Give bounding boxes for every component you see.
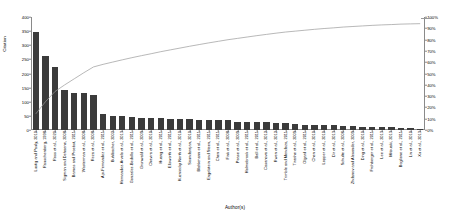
- y2-axis-tick-label: 100%: [425, 15, 438, 20]
- x-axis-category-label: Soundarajan, 2010: [188, 131, 192, 165]
- x-label-slot: Huang et al., 2011: [156, 131, 166, 203]
- bar-slot: [406, 17, 416, 130]
- x-label-slot: Mitsuaki, 2013: [387, 131, 397, 203]
- bar-slot: [214, 17, 224, 130]
- bar-series: [31, 17, 425, 130]
- bar: [282, 123, 288, 130]
- y2-axis-tick-mark: [425, 73, 427, 74]
- bar-slot: [185, 17, 195, 130]
- bar-slot: [69, 17, 79, 130]
- x-axis-category-label: Grunwald et al., 2009: [140, 131, 144, 169]
- bar-slot: [281, 17, 291, 130]
- bar: [148, 118, 154, 130]
- bar-slot: [223, 17, 233, 130]
- bar-slot: [31, 17, 41, 130]
- x-label-slot: Chen et al., 2010: [310, 131, 320, 203]
- x-label-slot: Lin et al., 2010: [406, 131, 416, 203]
- x-label-slot: Dir et al., 2013: [329, 131, 339, 203]
- cumulative-legend-swatch: [421, 18, 434, 19]
- bar: [234, 122, 240, 130]
- y2-axis-tick-mark: [425, 118, 427, 119]
- x-label-slot: Holmebrook et al., 2011: [242, 131, 252, 203]
- x-label-slot: Grunwald et al., 2009: [137, 131, 147, 203]
- x-label-slot: Frohberger et al., 2011: [367, 131, 377, 203]
- bar-slot: [156, 17, 166, 130]
- x-label-slot: Ball et al., 2011: [252, 131, 262, 203]
- x-label-slot: Pease et al., 2009: [233, 131, 243, 203]
- bar: [167, 119, 173, 130]
- x-axis-category-label: Barnes and Proebst, 2011: [72, 131, 76, 177]
- bar-slot: [175, 17, 185, 130]
- y-axis-title: Citation: [2, 14, 7, 74]
- x-axis-category-label: Gonzalez-Bedolla et al., 2011: [130, 131, 134, 183]
- y2-axis-tick-mark: [425, 130, 427, 131]
- x-axis-category-label: Chen et al., 2010: [313, 131, 317, 161]
- x-label-slot: Ross et al., 2020: [50, 131, 60, 203]
- x-axis-category-label: Fink et al., 2008: [226, 131, 230, 160]
- bar-slot: [367, 17, 377, 130]
- bar: [61, 90, 67, 130]
- x-axis-category-label: Rauschenberg, 1998: [43, 131, 47, 168]
- bar: [186, 119, 192, 130]
- bar-slot: [290, 17, 300, 130]
- x-axis-category-label: Lee et al., 2013: [380, 131, 384, 159]
- x-label-slot: Casanova et al., 2012: [262, 131, 272, 203]
- bar: [71, 93, 77, 130]
- bar: [81, 93, 87, 130]
- x-axis-category-label: Blahkmann et al., 2011: [197, 131, 201, 172]
- x-axis-category-label: Hernandez-Arvelo et al., 2013: [120, 131, 124, 184]
- x-axis-category-label: Dir et al., 2013: [332, 131, 336, 157]
- x-label-slot: Ellsworth et al., 2011: [166, 131, 176, 203]
- x-axis-category-label: Kuzniecky North et al., 2010: [178, 131, 182, 181]
- x-axis-category-label: Trimble and Mendoza, 2011: [284, 131, 288, 180]
- bar: [52, 67, 58, 130]
- x-axis-category-label: Reza et al., 2008: [92, 131, 96, 161]
- x-label-slot: Ajo-Fernandez et al., 2011: [98, 131, 108, 203]
- x-label-slot: Rwen et al., 2012: [271, 131, 281, 203]
- x-axis-category-label: Tiranhe et al., 2009: [293, 131, 297, 165]
- bar-slot: [300, 17, 310, 130]
- bar-slot: [242, 17, 252, 130]
- bar-slot: [396, 17, 406, 130]
- x-axis-category-label: Sigman and Dehaene, 2008: [63, 131, 67, 181]
- bar-slot: [252, 17, 262, 130]
- bar-slot: [127, 17, 137, 130]
- bar: [196, 120, 202, 130]
- bar-slot: [387, 17, 397, 130]
- bar-slot: [60, 17, 70, 130]
- bar: [110, 116, 116, 130]
- x-axis-category-label: Schulte et al., 2006: [341, 131, 345, 165]
- x-label-slot: Lustig and Pauly, 2010: [31, 131, 41, 203]
- bar-slot: [319, 17, 329, 130]
- bar: [206, 120, 212, 130]
- x-axis-title: Author(s): [0, 205, 470, 210]
- x-label-slot: Rauschenberg, 1998: [41, 131, 51, 203]
- x-axis-category-labels: Lustig and Pauly, 2010Rauschenberg, 1998…: [31, 131, 425, 203]
- x-axis-category-label: Ellsworth et al., 2011: [168, 131, 172, 168]
- x-label-slot: Westerman et al., 2008: [79, 131, 89, 203]
- x-label-slot: Lee et al., 2013: [377, 131, 387, 203]
- bar-slot: [50, 17, 60, 130]
- y2-axis-tick-mark: [425, 51, 427, 52]
- bar: [263, 122, 269, 130]
- bar-slot: [271, 17, 281, 130]
- x-axis-category-label: Ross et al., 2020: [53, 131, 57, 161]
- bar-slot: [358, 17, 368, 130]
- x-axis-category-label: Westerman et al., 2008: [82, 131, 86, 172]
- x-label-slot: Hernandez-Arvelo et al., 2013: [117, 131, 127, 203]
- bar-slot: [146, 17, 156, 130]
- bar: [273, 123, 279, 130]
- x-label-slot: Boglione et al., 2011: [396, 131, 406, 203]
- x-label-slot: Zhdanov and Alexander, 2009: [348, 131, 358, 203]
- bar: [100, 114, 106, 130]
- x-label-slot: Barnes and Proebst, 2011: [69, 131, 79, 203]
- bar: [177, 119, 183, 130]
- y2-axis-tick-mark: [425, 96, 427, 97]
- y2-axis-tick-mark: [425, 39, 427, 40]
- bar-slot: [310, 17, 320, 130]
- x-axis-category-label: Chavira et al., 2010: [149, 131, 153, 166]
- bar: [158, 118, 164, 130]
- bar: [225, 120, 231, 130]
- y2-axis-tick-mark: [425, 107, 427, 108]
- bar-slot: [166, 17, 176, 130]
